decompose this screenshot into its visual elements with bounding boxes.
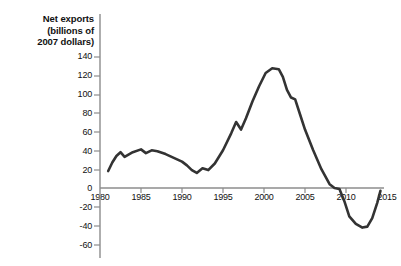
data-line-net-exports [108, 68, 380, 227]
x-axis-ticks [141, 188, 385, 193]
y-axis-ticks [94, 57, 100, 245]
